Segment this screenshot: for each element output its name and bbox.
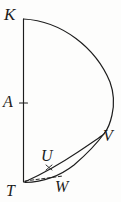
chord-TV xyxy=(25,134,105,182)
point-label-U: U xyxy=(41,148,53,164)
figure-drawing-canvas xyxy=(0,0,121,202)
point-label-T: T xyxy=(6,183,15,199)
point-label-V: V xyxy=(103,128,113,144)
geometric-figure: K A T U V W xyxy=(0,0,121,202)
point-label-K: K xyxy=(4,6,15,23)
point-label-W: W xyxy=(55,179,68,195)
major-arc-KV xyxy=(24,19,114,133)
lower-arc-VT xyxy=(25,133,105,183)
point-label-A: A xyxy=(3,94,13,110)
